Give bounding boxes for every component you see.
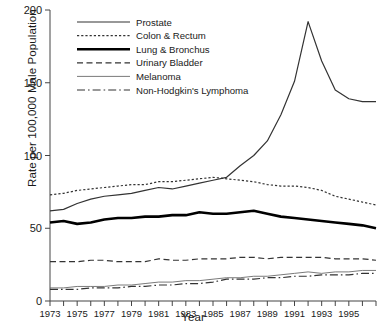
line-chart: 050100150200 197319751977197919811983198… <box>0 0 386 327</box>
legend-label: Melanoma <box>136 71 181 82</box>
y-tick-label: 50 <box>30 222 42 234</box>
legend-label: Prostate <box>136 17 172 28</box>
legend-label: Non-Hodgkin's Lymphoma <box>136 85 249 96</box>
x-axis-label: Year <box>0 311 386 323</box>
series-line-melanoma <box>50 270 376 287</box>
y-tick-label: 0 <box>36 295 42 307</box>
series-line-colon-rectum <box>50 177 376 205</box>
series-line-lung-bronchus <box>50 211 376 228</box>
legend-label: Urinary Bladder <box>136 57 203 68</box>
legend-label: Colon & Rectum <box>136 30 206 41</box>
data-series-group <box>50 22 376 290</box>
series-line-non-hodgkin-s-lymphoma <box>50 273 376 289</box>
chart-canvas: 050100150200 197319751977197919811983198… <box>0 0 386 327</box>
legend-label: Lung & Bronchus <box>136 44 210 55</box>
series-line-urinary-bladder <box>50 257 376 261</box>
y-axis-label: Rate per 100,000 Male Population <box>26 8 38 188</box>
chart-legend: ProstateColon & RectumLung & BronchusUri… <box>77 17 249 96</box>
